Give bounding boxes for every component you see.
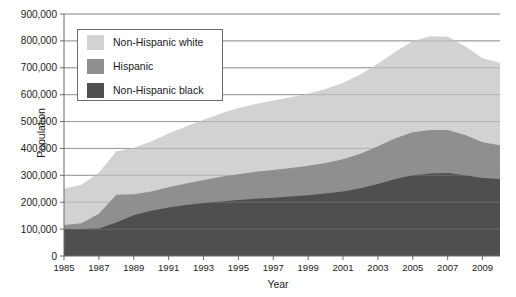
x-tick-label: 1997 <box>263 262 284 273</box>
x-tick-label: 2007 <box>437 262 458 273</box>
x-axis-title: Year <box>0 278 516 290</box>
legend-item-hispanic: Hispanic <box>78 54 222 78</box>
x-tick-label: 1985 <box>53 262 74 273</box>
legend-label-non-hispanic-white: Non-Hispanic white <box>113 37 203 48</box>
chart-legend: Non-Hispanic white Hispanic Non-Hispanic… <box>77 29 223 101</box>
x-axis-title-label: Year <box>267 278 288 290</box>
x-tick-label: 1991 <box>158 262 179 273</box>
x-tick-label: 1995 <box>228 262 249 273</box>
legend-swatch-non-hispanic-black <box>87 83 104 98</box>
legend-label-non-hispanic-black: Non-Hispanic black <box>113 85 203 96</box>
y-tick-label: 100,000 <box>21 224 58 235</box>
x-tick-label: 2005 <box>402 262 423 273</box>
x-tick-label: 1999 <box>298 262 319 273</box>
legend-swatch-non-hispanic-white <box>87 35 104 50</box>
chart-figure: 0100,000200,000300,000400,000500,000600,… <box>0 0 516 297</box>
y-tick-label: 800,000 <box>21 35 58 46</box>
legend-item-non-hispanic-black: Non-Hispanic black <box>78 78 222 102</box>
y-tick-label: 200,000 <box>21 197 58 208</box>
x-tick-label: 2009 <box>472 262 493 273</box>
legend-label-hispanic: Hispanic <box>113 61 153 72</box>
y-tick-label: 0 <box>51 251 57 262</box>
y-tick-label: 700,000 <box>21 62 58 73</box>
x-tick-label: 2001 <box>332 262 353 273</box>
legend-swatch-hispanic <box>87 59 104 74</box>
x-tick-label: 1993 <box>193 262 214 273</box>
x-tick-label: 1987 <box>88 262 109 273</box>
x-tick-label: 2003 <box>367 262 388 273</box>
legend-item-non-hispanic-white: Non-Hispanic white <box>78 30 222 54</box>
x-axis-ticks: 1985198719891991199319951997199920012003… <box>53 256 493 273</box>
y-axis-title: Population <box>35 73 47 193</box>
x-tick-label: 1989 <box>123 262 144 273</box>
y-tick-label: 900,000 <box>21 9 58 20</box>
